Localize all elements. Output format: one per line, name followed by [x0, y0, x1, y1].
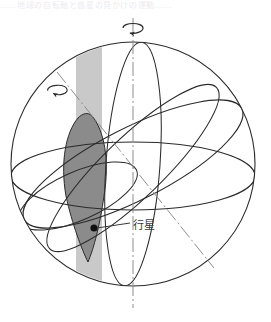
planet-label: 行星 — [133, 216, 155, 232]
axis-rotation-arrow-tilted-icon — [47, 84, 68, 96]
figure-page: ……地球の自転軸と惑星の見かけの運動…… — [0, 0, 271, 322]
planet-marker — [90, 224, 97, 231]
celestial-sphere-diagram — [0, 0, 271, 322]
